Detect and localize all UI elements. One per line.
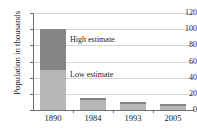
x-tick-label: 1993 [113,114,153,123]
y-tick-label: 100 [167,25,197,33]
bar-2005 [160,104,186,110]
x-tick-mark [113,110,114,113]
y-tick-mark [30,78,33,79]
y-tick-mark [30,94,33,95]
y-tick-mark [30,29,33,30]
high-estimate-segment [40,29,66,69]
y-axis-title: Population in thousands [12,0,22,108]
x-tick-label: 1890 [33,114,73,123]
low-estimate-segment [80,100,106,110]
x-tick-mark [153,110,154,113]
annotation-low-estimate: Low estimate [70,70,113,79]
y-tick-label: 40 [167,74,197,82]
y-tick-label: 120 [167,9,197,17]
low-estimate-segment [40,70,66,110]
bar-1993 [120,102,146,110]
annotation-high-estimate: High estimate [70,35,115,44]
x-tick-label: 1984 [73,114,113,123]
low-estimate-segment [160,106,186,110]
x-tick-mark [73,110,74,113]
y-tick-label: 20 [167,90,197,98]
y-tick-mark [30,45,33,46]
bar-1984 [80,98,106,110]
y-tick-mark [30,13,33,14]
y-tick-label: 80 [167,41,197,49]
x-tick-label: 2005 [153,114,193,123]
bar-1890 [40,29,66,110]
low-estimate-segment [120,104,146,110]
y-tick-label: 60 [167,58,197,66]
y-tick-mark [30,110,33,111]
y-tick-mark [30,62,33,63]
bar-chart: Population in thousands 020406080100120 … [0,0,197,134]
